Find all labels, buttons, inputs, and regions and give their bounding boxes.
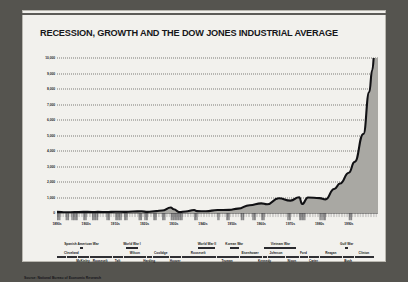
y-axis-labels: 10,0009,0008,0007,0006,0005,0004,0003,00… (30, 58, 56, 213)
president-term-divider (239, 255, 240, 258)
x-tick-label: 1930s (169, 222, 178, 226)
president-label: Nixon (288, 259, 297, 263)
president-label: Taft (115, 259, 120, 263)
plot-area: 10,0009,0008,0007,0006,0005,0004,0003,00… (30, 58, 382, 233)
president-label: Harding (143, 259, 155, 263)
x-tick-label: 1990s (344, 222, 353, 226)
president-term-divider (216, 255, 217, 258)
war-label: Spanish American War (64, 242, 98, 246)
x-tick-label: 1910s (111, 222, 120, 226)
x-tick-label: 1950s (227, 222, 236, 226)
war-duration-bar (198, 247, 215, 249)
war-label: Gulf War (340, 242, 353, 246)
president-term-divider (262, 255, 263, 258)
president-label: Coolidge (154, 251, 167, 255)
president-term-divider (152, 255, 153, 258)
president-annotations: ClevelandMcKinleyRooseveltTaftWilsonHard… (57, 251, 374, 268)
war-label: World War I (123, 242, 141, 246)
president-term-divider (146, 255, 147, 258)
y-tick-label: 9,000 (47, 72, 55, 76)
x-tick-label: 1960s (257, 222, 266, 226)
recession-tick-band (57, 213, 378, 222)
president-term-divider (299, 255, 300, 258)
y-tick-label: 8,000 (47, 87, 55, 91)
djia-area-series (57, 58, 378, 213)
y-tick-label: 10,000 (45, 56, 55, 60)
war-label: Vietnam War (271, 242, 290, 246)
x-tick-label: 1890s (52, 222, 61, 226)
president-term-divider (308, 255, 309, 258)
chart-page: RECESSION, GROWTH AND THE DOW JONES INDU… (0, 0, 408, 282)
x-tick-label: 1920s (140, 222, 149, 226)
president-label: Eisenhower (241, 251, 258, 255)
y-tick-label: 2,000 (47, 180, 55, 184)
president-term-divider (319, 255, 320, 258)
y-tick-label: 0 (53, 211, 55, 215)
president-term-divider (77, 255, 78, 258)
president-label: Wilson (130, 251, 140, 255)
president-label: Bush (344, 259, 352, 263)
y-tick-label: 6,000 (47, 118, 55, 122)
title-divider (22, 13, 386, 15)
president-term-divider (66, 255, 67, 258)
president-label: Roosevelt (93, 259, 108, 263)
y-tick-label: 3,000 (47, 165, 55, 169)
y-tick-label: 7,000 (47, 103, 55, 107)
chart-card: RECESSION, GROWTH AND THE DOW JONES INDU… (22, 10, 386, 262)
president-term-divider (112, 255, 113, 258)
president-label: Clinton (359, 251, 370, 255)
x-axis-labels: 1890s1900s1910s1920s1930s1940s1950s1960s… (57, 222, 378, 231)
x-tick-label: 1970s (286, 222, 295, 226)
war-duration-bar (80, 247, 83, 249)
y-tick-label: 5,000 (47, 134, 55, 138)
war-duration-bar (230, 247, 239, 249)
president-label: Johnson (270, 251, 283, 255)
president-label: Reagan (325, 251, 336, 255)
president-label: Roosevelt (191, 251, 206, 255)
x-tick-label: 1980s (315, 222, 324, 226)
war-duration-bar (126, 247, 138, 249)
president-term-divider (342, 255, 343, 258)
president-term-divider (169, 255, 170, 258)
president-label: Hoover (170, 259, 181, 263)
president-label: Kennedy (258, 259, 271, 263)
president-label: McKinley (76, 259, 90, 263)
president-label: Carter (309, 259, 318, 263)
president-term-divider (267, 255, 268, 258)
war-label: Korean War (225, 242, 243, 246)
president-label: Truman (221, 259, 232, 263)
president-term-divider (285, 255, 286, 258)
president-term-divider (354, 255, 355, 258)
x-tick-label: 1900s (82, 222, 91, 226)
war-annotations: Spanish American WarWorld War IWorld War… (57, 242, 374, 250)
president-term-divider (89, 255, 90, 258)
y-tick-label: 4,000 (47, 149, 55, 153)
president-label: Ford (300, 251, 307, 255)
president-term-divider (181, 255, 182, 258)
war-duration-bar (345, 247, 348, 249)
president-term-divider (123, 255, 124, 258)
war-duration-bar (264, 247, 296, 249)
source-note: Source: National Bureau of Economic Rese… (24, 276, 101, 280)
y-tick-label: 1,000 (47, 196, 55, 200)
page-title: RECESSION, GROWTH AND THE DOW JONES INDU… (40, 28, 376, 38)
x-tick-label: 1940s (198, 222, 207, 226)
war-label: World War II (198, 242, 216, 246)
